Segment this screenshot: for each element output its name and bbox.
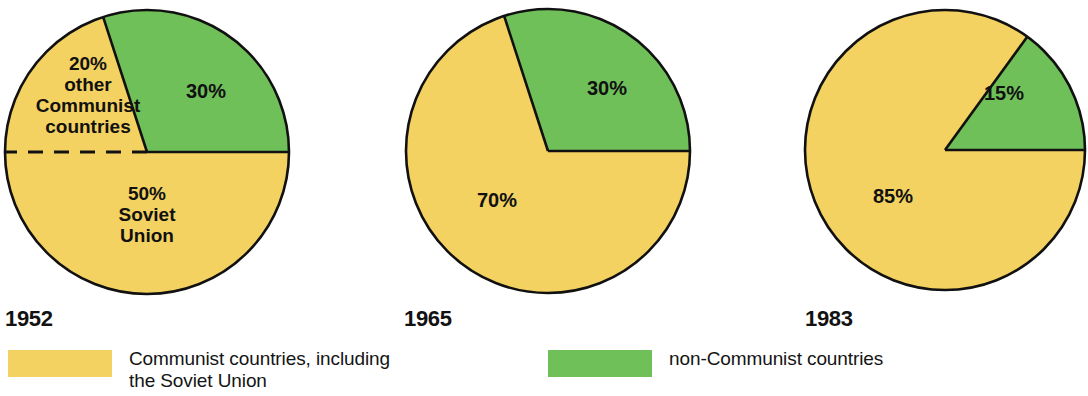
legend-label-communist: Communist countries, including the Sovie… <box>129 348 390 392</box>
year-label-1983: 1983 <box>805 306 853 332</box>
pie-slice-label-1965-70pct: 70% <box>477 189 517 211</box>
pie-chart-1965: 30%70% <box>406 9 690 293</box>
pie-slice-label-1952-30pct: 30% <box>186 80 226 102</box>
year-label-1952: 1952 <box>5 306 53 332</box>
legend-item-non-communist[interactable]: non-Communist countries <box>548 348 883 377</box>
legend-swatch-communist <box>8 350 112 377</box>
legend: Communist countries, including the Sovie… <box>0 348 1088 396</box>
pie-slice-label-1983-15pct: 15% <box>984 82 1024 104</box>
pie-chart-figure: 30%50%SovietUnion20%otherCommunistcountr… <box>0 0 1088 396</box>
year-label-1965: 1965 <box>404 306 452 332</box>
pie-slice-label-1983-85pct: 85% <box>873 185 913 207</box>
pie-charts-svg: 30%50%SovietUnion20%otherCommunistcountr… <box>0 0 1088 330</box>
legend-label-non-communist: non-Communist countries <box>669 348 883 370</box>
pie-chart-1952: 30%50%SovietUnion20%otherCommunistcountr… <box>5 10 289 294</box>
pie-chart-1983: 15%85% <box>805 10 1085 290</box>
legend-item-communist[interactable]: Communist countries, including the Sovie… <box>8 348 390 392</box>
legend-swatch-non-communist <box>548 350 652 377</box>
pie-slice-label-1965-30pct: 30% <box>587 77 627 99</box>
